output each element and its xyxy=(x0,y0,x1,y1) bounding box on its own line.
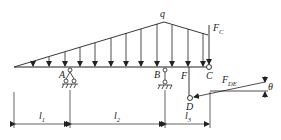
point-label-b: B xyxy=(154,69,160,80)
force-fde-label: FDE xyxy=(221,74,237,87)
point-label-f: F xyxy=(180,70,188,81)
angle-label-theta: θ xyxy=(268,81,273,92)
load-label-q: q xyxy=(160,8,165,19)
force-fc-label: FC xyxy=(212,22,224,35)
beam-diagram: q FC C A B F D FDE θ xyxy=(0,0,281,140)
hinge-c xyxy=(207,65,212,70)
dimension-label-l1: l1 xyxy=(39,110,45,123)
hinge-d xyxy=(188,96,193,101)
load-arrows xyxy=(33,24,203,66)
point-label-c: C xyxy=(206,70,213,81)
dimension-label-l2: l2 xyxy=(114,110,121,123)
point-label-a: A xyxy=(58,69,66,80)
